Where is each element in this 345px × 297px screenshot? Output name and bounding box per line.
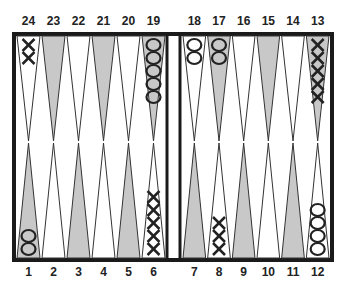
backgammon-board xyxy=(0,0,345,297)
